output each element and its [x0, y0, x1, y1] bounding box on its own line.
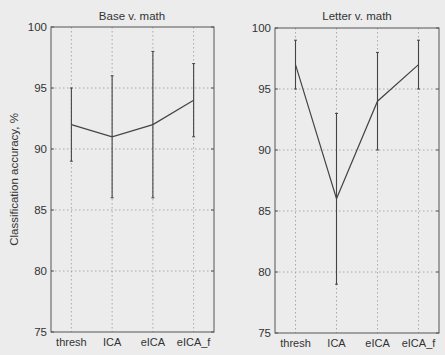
y-tick-label: 85: [258, 205, 271, 217]
right-chart: 7580859095100threshICAeICAeICA_fLetter v…: [252, 10, 439, 349]
chart-title: Letter v. math: [322, 10, 391, 22]
axes-box: [275, 28, 439, 333]
y-tick-label: 75: [34, 326, 47, 338]
y-tick-label: 90: [258, 144, 271, 156]
y-tick-label: 95: [34, 82, 47, 94]
x-tick-label: eICA_f: [177, 336, 212, 348]
chart-title: Base v. math: [99, 10, 165, 22]
y-tick-label: 100: [252, 22, 271, 34]
y-tick-label: 95: [258, 83, 271, 95]
data-line: [296, 65, 419, 199]
y-axis-label: Classification accuracy, %: [8, 113, 20, 246]
x-tick-label: eICA: [141, 336, 166, 348]
x-tick-label: thresh: [56, 336, 87, 348]
data-line: [71, 100, 193, 137]
y-tick-label: 85: [34, 204, 47, 216]
y-tick-label: 80: [34, 265, 47, 277]
x-tick-label: eICA: [365, 337, 390, 349]
left-chart: 7580859095100threshICAeICAeICA_fBase v. …: [8, 10, 214, 348]
axes-box: [51, 27, 214, 332]
x-tick-label: ICA: [327, 337, 346, 349]
chart-canvas: 7580859095100threshICAeICAeICA_fBase v. …: [0, 0, 445, 355]
x-tick-label: ICA: [103, 336, 122, 348]
y-tick-label: 100: [28, 21, 47, 33]
x-tick-label: thresh: [280, 337, 311, 349]
y-tick-label: 80: [258, 266, 271, 278]
x-tick-label: eICA_f: [402, 337, 437, 349]
y-tick-label: 75: [258, 327, 271, 339]
y-tick-label: 90: [34, 143, 47, 155]
